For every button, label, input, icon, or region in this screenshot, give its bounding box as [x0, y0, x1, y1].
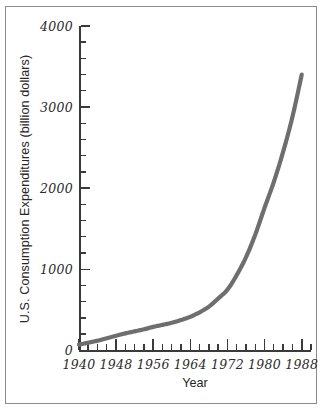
x-tick-label: 1964 — [174, 357, 207, 372]
y-axis-title-text: U.S. Consumption Expenditures (billion d… — [18, 55, 32, 324]
data-line-series — [79, 26, 311, 352]
x-tick-label: 1980 — [248, 357, 281, 372]
chart-figure: U.S. Consumption Expenditures (billion d… — [0, 0, 329, 420]
x-tick-label: 1988 — [285, 357, 318, 372]
x-tick-label: 1940 — [62, 357, 95, 372]
x-tick-label: 1956 — [137, 357, 170, 372]
x-tick-label: 1948 — [100, 357, 133, 372]
x-axis-title: Year — [79, 376, 311, 390]
y-tick-label: 4000 — [40, 19, 73, 34]
y-tick-label: 0 — [65, 343, 73, 358]
y-axis-title: U.S. Consumption Expenditures (billion d… — [14, 26, 36, 352]
plot-area: 01000200030004000 1940194819561964197219… — [79, 26, 311, 352]
y-tick-label: 2000 — [40, 181, 73, 196]
y-tick-label: 3000 — [40, 100, 73, 115]
y-tick-label: 1000 — [40, 262, 73, 277]
x-tick-label: 1972 — [211, 357, 244, 372]
